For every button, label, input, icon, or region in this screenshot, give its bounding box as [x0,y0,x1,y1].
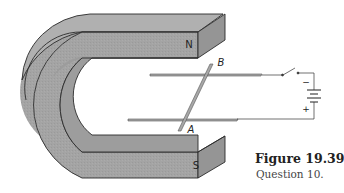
battery-negative-label: − [302,77,310,87]
switch-blade[interactable] [283,68,295,75]
north-label: N [185,39,192,50]
battery-positive-label: + [302,104,310,114]
figure-number: Figure 19.39 [255,151,344,166]
south-label: S [193,160,199,171]
horseshoe-magnet: N S [17,14,225,178]
figure-caption: Question 10. [256,168,324,180]
rod-label-b: B [218,57,225,68]
rod-label-a: A [187,124,195,135]
sliding-rod: B A [178,57,225,135]
